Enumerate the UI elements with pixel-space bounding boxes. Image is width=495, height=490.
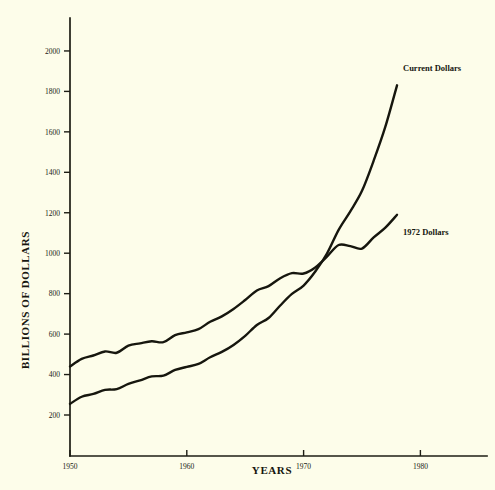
x-axis-ticks: 1950196019701980 <box>63 450 429 471</box>
y-tick-label: 1200 <box>45 209 60 218</box>
series-annotation-1972-dollars: 1972 Dollars <box>403 227 449 237</box>
y-tick-label: 600 <box>49 330 61 339</box>
chart-figure: 200400600800100012001400160018002000 195… <box>0 0 495 490</box>
y-tick-label: 1400 <box>45 168 60 177</box>
y-tick-label: 400 <box>49 370 61 379</box>
series-annotation-current-dollars: Current Dollars <box>403 63 462 73</box>
y-tick-label: 1600 <box>45 128 60 137</box>
y-tick-label: 800 <box>49 289 61 298</box>
y-tick-label: 1800 <box>45 87 60 96</box>
y-tick-label: 200 <box>49 411 61 420</box>
x-tick-label: 1950 <box>63 462 78 471</box>
y-axis-ticks: 200400600800100012001400160018002000 <box>45 47 70 420</box>
y-tick-label: 2000 <box>45 47 60 56</box>
y-tick-label: 1000 <box>45 249 60 258</box>
x-tick-label: 1980 <box>413 462 428 471</box>
x-tick-label: 1970 <box>296 462 311 471</box>
x-tick-label: 1960 <box>179 462 194 471</box>
y-axis-title: BILLIONS OF DOLLARS <box>19 231 31 369</box>
line-chart-canvas: 200400600800100012001400160018002000 195… <box>0 0 495 490</box>
x-axis-title: YEARS <box>252 464 292 476</box>
